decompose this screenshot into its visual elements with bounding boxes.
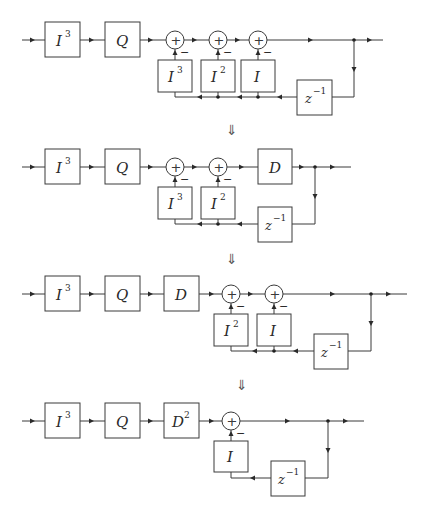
feedback-block-i3: [158, 60, 192, 92]
svg-text:−: −: [223, 173, 232, 186]
svg-text:−: −: [180, 46, 189, 59]
svg-text:3: 3: [177, 65, 183, 75]
svg-text:I: I: [55, 159, 63, 177]
feedback-block-i3: [158, 187, 192, 219]
svg-text:z: z: [320, 345, 328, 360]
svg-text:Q: Q: [116, 32, 128, 50]
svg-text:I: I: [55, 413, 63, 431]
svg-text:Q: Q: [116, 159, 128, 177]
svg-text:2: 2: [184, 410, 190, 420]
diagram-3: I 3 Q D + − + − z −1 I 2: [22, 276, 407, 369]
block-diagram-figure: I 3 Q + − + − + − z −1: [0, 0, 429, 523]
block-i3: [45, 276, 80, 311]
diagram-2: I 3 Q + − + − D z −1 I 3: [22, 149, 351, 242]
diagram-4: I 3 Q D 2 + − z −1 I: [22, 403, 364, 496]
svg-text:z: z: [277, 472, 285, 487]
svg-text:I: I: [253, 68, 261, 86]
block-i3-label: I: [55, 32, 63, 50]
svg-text:3: 3: [177, 192, 183, 202]
svg-text:I: I: [269, 322, 277, 340]
svg-text:I: I: [223, 322, 231, 340]
block-i3: [45, 22, 80, 57]
svg-text:z: z: [304, 91, 312, 106]
implies-arrow-2: ⇓: [226, 251, 238, 267]
svg-text:−: −: [236, 300, 245, 313]
feedback-block-i2: [214, 314, 248, 346]
svg-text:−: −: [223, 46, 232, 59]
svg-text:D: D: [268, 159, 281, 177]
feedback-block-i2: [201, 60, 235, 92]
svg-text:Q: Q: [116, 413, 128, 431]
svg-text:−: −: [180, 173, 189, 186]
svg-text:−1: −1: [273, 213, 286, 223]
svg-text:2: 2: [220, 65, 226, 75]
svg-text:−: −: [236, 427, 245, 440]
svg-text:−1: −1: [286, 467, 299, 477]
svg-text:2: 2: [220, 192, 226, 202]
svg-text:D: D: [174, 286, 187, 304]
svg-text:3: 3: [65, 156, 71, 166]
svg-text:I: I: [226, 448, 234, 466]
svg-text:−: −: [279, 300, 288, 313]
block-i3: [45, 403, 80, 438]
block-i3: [45, 149, 80, 184]
svg-text:−: −: [263, 46, 272, 59]
implies-arrow-1: ⇓: [226, 122, 238, 138]
svg-text:I: I: [167, 195, 175, 213]
svg-text:I: I: [210, 195, 218, 213]
svg-text:−1: −1: [313, 86, 326, 96]
svg-text:D: D: [171, 413, 184, 431]
svg-text:3: 3: [65, 283, 71, 293]
svg-text:I: I: [55, 286, 63, 304]
implies-arrow-3: ⇓: [236, 377, 248, 393]
svg-text:3: 3: [65, 29, 71, 39]
svg-text:Q: Q: [116, 286, 128, 304]
svg-text:I: I: [210, 68, 218, 86]
diagram-1: I 3 Q + − + − + − z −1: [22, 22, 383, 115]
svg-text:−1: −1: [329, 340, 342, 350]
svg-text:I: I: [167, 68, 175, 86]
svg-text:2: 2: [233, 319, 239, 329]
svg-text:3: 3: [65, 410, 71, 420]
feedback-block-i2: [201, 187, 235, 219]
svg-text:z: z: [264, 218, 272, 233]
